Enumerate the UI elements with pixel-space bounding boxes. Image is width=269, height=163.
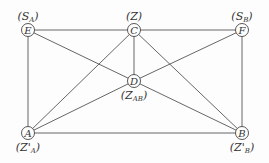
node-label: E	[23, 25, 32, 36]
node-D: D(ZAB)	[121, 75, 147, 104]
edge-D-A	[28, 81, 134, 133]
node-A: A(Z'A)	[16, 127, 40, 156]
node-annotation: (SB)	[231, 10, 252, 24]
node-label: D	[129, 76, 138, 87]
node-C: C(Z)	[126, 10, 142, 37]
node-annotation: (Z'A)	[16, 141, 40, 155]
node-annotation: (Z'B)	[230, 141, 254, 155]
node-annotation: (SA)	[17, 10, 38, 24]
edge-E-D	[28, 30, 134, 81]
node-label: F	[238, 25, 247, 36]
node-annotation: (ZAB)	[121, 89, 147, 103]
graph-diagram: E(SA)C(Z)F(SB)D(ZAB)A(Z'A)B(Z'B)	[0, 0, 269, 163]
edge-C-A	[28, 30, 134, 133]
node-E: E(SA)	[17, 10, 38, 37]
node-annotation: (Z)	[126, 10, 142, 23]
node-label: C	[130, 25, 138, 36]
graph-canvas: E(SA)C(Z)F(SB)D(ZAB)A(Z'A)B(Z'B)	[0, 0, 269, 163]
node-label: B	[237, 128, 245, 139]
node-F: F(SB)	[231, 10, 252, 37]
node-label: A	[23, 128, 31, 139]
node-B: B(Z'B)	[230, 127, 254, 156]
edge-C-B	[134, 30, 242, 133]
edge-F-D	[134, 30, 242, 81]
edge-D-B	[134, 81, 242, 133]
